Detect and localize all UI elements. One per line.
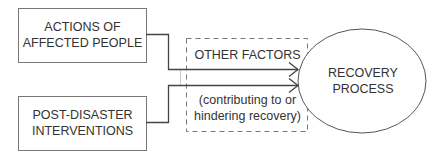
- recovery-label-line1: RECOVERY: [310, 65, 416, 81]
- recovery-process-label: RECOVERY PROCESS: [310, 65, 416, 97]
- actions-label-line2: AFFECTED PEOPLE: [18, 35, 147, 51]
- other-factors-line2: hindering recovery): [187, 108, 308, 124]
- actions-label-line1: ACTIONS OF: [18, 19, 147, 35]
- interventions-label-line1: POST-DISASTER: [18, 107, 147, 123]
- recovery-label-line2: PROCESS: [310, 81, 416, 97]
- interventions-label: POST-DISASTER INTERVENTIONS: [18, 107, 147, 139]
- other-factors-line1: (contributing to or: [187, 92, 308, 108]
- actions-label: ACTIONS OF AFFECTED PEOPLE: [18, 19, 147, 51]
- interventions-label-line2: INTERVENTIONS: [18, 123, 147, 139]
- other-factors-description: (contributing to or hindering recovery): [187, 92, 308, 124]
- other-factors-title: OTHER FACTORS: [187, 47, 308, 63]
